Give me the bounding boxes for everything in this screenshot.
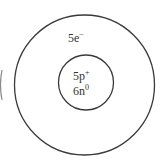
atom-diagram: 5e− 5p+ 6n0 [0, 0, 164, 166]
partial-arc-edge [1, 70, 3, 100]
electron-label: 5e− [68, 30, 84, 45]
neutron-label: 6n0 [73, 83, 89, 98]
proton-label: 5p+ [73, 68, 90, 83]
